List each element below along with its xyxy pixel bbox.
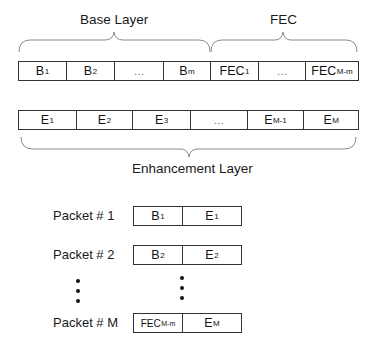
- ellipsis-dot: [180, 276, 184, 280]
- cell-e3: E3: [133, 111, 191, 129]
- cell-e1: E1: [19, 111, 77, 129]
- packet-m-enh: EM: [183, 314, 241, 332]
- ellipsis-dot: [76, 289, 80, 293]
- base-layer-brace: [19, 32, 210, 52]
- packet-m-label: Packet # M: [53, 315, 118, 330]
- ellipsis-dot: [76, 299, 80, 303]
- packet-2-label: Packet # 2: [53, 247, 114, 262]
- cell-ellipsis: …: [259, 62, 306, 80]
- cell-fec-m-m: FECM-m: [306, 62, 358, 80]
- packet-1-box: B1 E1: [133, 206, 242, 226]
- fec-label: FEC: [270, 12, 297, 27]
- base-fec-row: B1 B2 … Bm FEC1 … FECM-m: [18, 61, 359, 81]
- enhancement-layer-brace: [21, 137, 356, 157]
- ellipsis-dot: [180, 296, 184, 300]
- base-layer-label: Base Layer: [80, 12, 148, 27]
- packet-2-box: B2 E2: [133, 245, 242, 265]
- ellipsis-dot: [76, 279, 80, 283]
- packet-m-box: FECM-m EM: [133, 313, 242, 333]
- fec-brace: [211, 32, 357, 52]
- enhancement-row: E1 E2 E3 … EM-1 EM: [18, 110, 359, 130]
- packet-2-enh: E2: [183, 246, 241, 264]
- cell-b1: B1: [19, 62, 67, 80]
- cell-e2: E2: [77, 111, 134, 129]
- packet-1-base: B1: [134, 207, 183, 225]
- cell-ellipsis: …: [191, 111, 248, 129]
- packet-2-base: B2: [134, 246, 183, 264]
- packet-1-label: Packet # 1: [53, 208, 114, 223]
- braces: [0, 0, 374, 352]
- packet-1-enh: E1: [183, 207, 241, 225]
- ellipsis-dot: [180, 286, 184, 290]
- cell-bm: Bm: [164, 62, 211, 80]
- enhancement-layer-label: Enhancement Layer: [132, 161, 253, 176]
- cell-e-m-1: EM-1: [248, 111, 305, 129]
- cell-b2: B2: [67, 62, 115, 80]
- cell-fec1: FEC1: [211, 62, 259, 80]
- cell-e-m: EM: [304, 111, 358, 129]
- packet-m-fec: FECM-m: [134, 314, 183, 332]
- cell-ellipsis: …: [115, 62, 164, 80]
